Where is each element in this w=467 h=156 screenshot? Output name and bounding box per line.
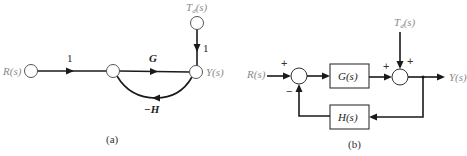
output-label-b: Y(s): [449, 71, 467, 84]
node-disturbance: [191, 17, 204, 30]
input-label: R(s): [2, 65, 22, 78]
arrow-input-branch-icon: [66, 68, 74, 75]
input-label-b: R(s): [246, 68, 266, 81]
arrow-to-h-icon: [369, 114, 377, 121]
input-gain-label: 1: [67, 52, 73, 64]
node-input: [25, 65, 38, 78]
arrow-input-icon: [283, 73, 291, 80]
sum2-plus-disturbance-sign: +: [407, 55, 413, 67]
caption-b: (b): [348, 138, 361, 151]
sum1-minus-sign: −: [286, 85, 292, 97]
forward-gain-label: G: [149, 52, 157, 64]
feedback-gain-label: −H: [144, 103, 160, 115]
arrow-forward-branch-icon: [150, 68, 158, 75]
arrow-disturbance-icon: [397, 61, 404, 69]
signal-flow-graph-a: 1 G 1 −H R(s) Y(s) Td(s) (a): [2, 1, 224, 146]
arrow-feedback-branch-icon: [152, 95, 160, 102]
summing-junction-1: [291, 68, 307, 84]
block-h-label: H(s): [337, 111, 358, 124]
disturbance-label: Td(s): [186, 1, 208, 15]
branch-feedback: [117, 76, 192, 98]
feedback-wire-left: [299, 89, 330, 116]
node-output: [190, 66, 203, 79]
arrow-disturbance-branch-icon: [194, 44, 201, 52]
node-error: [107, 65, 120, 78]
caption-a: (a): [106, 133, 119, 146]
disturbance-label-b: Td(s): [394, 16, 416, 30]
arrow-to-g-icon: [322, 73, 330, 80]
sum1-plus-sign: +: [281, 57, 287, 69]
arrow-feedback-icon: [296, 84, 303, 92]
disturbance-gain-label: 1: [203, 42, 209, 54]
output-label: Y(s): [206, 66, 224, 79]
arrow-to-sum2-icon: [384, 74, 392, 81]
block-g-label: G(s): [338, 70, 358, 83]
figure: 1 G 1 −H R(s) Y(s) Td(s) (a) R(s) + −: [0, 0, 467, 156]
arrow-output-icon: [437, 74, 445, 81]
block-diagram-b: R(s) + − G(s) + Td(s) + Y(s): [246, 16, 467, 151]
sum2-plus-forward-sign: +: [383, 60, 389, 72]
summing-junction-2: [392, 69, 408, 85]
